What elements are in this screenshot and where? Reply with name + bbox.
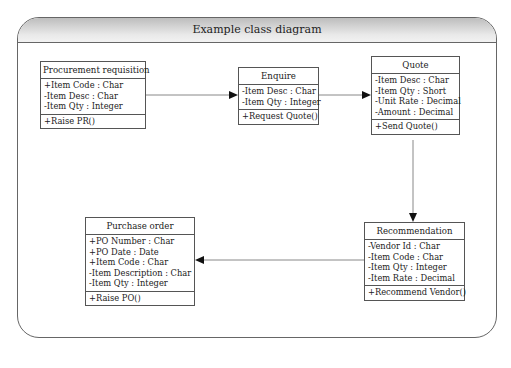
class-attributes: +PO Number : Char +PO Date : Date +Item … <box>86 235 194 292</box>
class-attributes: +Item Code : Char -Item Desc : Char -Ite… <box>41 79 145 115</box>
class-procurement-requisition: Procurement requisition +Item Code : Cha… <box>40 61 146 129</box>
class-operations: +Recommend Vendor() <box>365 286 464 300</box>
class-name: Recommendation <box>365 223 464 240</box>
class-operations: +Request Quote() <box>239 110 318 124</box>
attribute: -Item Desc : Char <box>375 75 456 86</box>
attribute: -Item Qty : Integer <box>242 97 315 108</box>
attribute: -Item Qty : Short <box>375 86 456 97</box>
operation: +Raise PO() <box>89 293 191 304</box>
class-name: Purchase order <box>86 218 194 235</box>
class-name: Quote <box>372 57 459 74</box>
operation: +Raise PR() <box>44 116 142 127</box>
attribute: -Item Desc : Char <box>44 91 142 102</box>
attribute: -Item Code : Char <box>368 252 461 263</box>
attribute: -Unit Rate : Decimal <box>375 96 456 107</box>
class-attributes: -Item Desc : Char -Item Qty : Short -Uni… <box>372 74 459 120</box>
attribute: +Item Code : Char <box>89 257 191 268</box>
attribute: -Item Qty : Integer <box>89 278 191 289</box>
attribute: +PO Number : Char <box>89 236 191 247</box>
class-enquire: Enquire -Item Desc : Char -Item Qty : In… <box>238 67 319 125</box>
class-operations: +Raise PR() <box>41 115 145 129</box>
attribute: -Vendor Id : Char <box>368 241 461 252</box>
class-name: Procurement requisition <box>41 62 145 79</box>
attribute: -Item Description : Char <box>89 268 191 279</box>
class-attributes: -Item Desc : Char -Item Qty : Integer <box>239 85 318 110</box>
operation: +Send Quote() <box>375 121 456 132</box>
attribute: -Amount : Decimal <box>375 107 456 118</box>
class-purchase-order: Purchase order +PO Number : Char +PO Dat… <box>85 217 195 306</box>
attribute: -Item Desc : Char <box>242 86 315 97</box>
attribute: -Item Rate : Decimal <box>368 273 461 284</box>
class-attributes: -Vendor Id : Char -Item Code : Char -Ite… <box>365 240 464 286</box>
class-recommendation: Recommendation -Vendor Id : Char -Item C… <box>364 222 465 301</box>
attribute: +PO Date : Date <box>89 247 191 258</box>
operation: +Request Quote() <box>242 111 315 122</box>
class-operations: +Raise PO() <box>86 292 194 306</box>
operation: +Recommend Vendor() <box>368 287 461 298</box>
diagram-title: Example class diagram <box>18 18 496 43</box>
class-name: Enquire <box>239 68 318 85</box>
attribute: -Item Qty : Integer <box>368 262 461 273</box>
class-quote: Quote -Item Desc : Char -Item Qty : Shor… <box>371 56 460 135</box>
attribute: +Item Code : Char <box>44 80 142 91</box>
class-operations: +Send Quote() <box>372 120 459 134</box>
attribute: -Item Qty : Integer <box>44 101 142 112</box>
